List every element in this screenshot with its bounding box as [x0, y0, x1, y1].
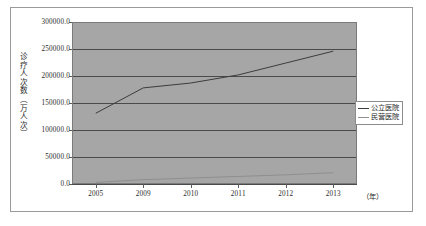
- x-tick-mark: [286, 184, 287, 188]
- legend-label: 公立医院: [371, 104, 399, 113]
- x-tick-label: 2013: [313, 190, 353, 198]
- legend: 公立医院民营医院: [355, 101, 403, 125]
- x-tick-label: 2010: [171, 190, 211, 198]
- legend-swatch: [358, 117, 369, 118]
- x-tick-label: 2005: [76, 190, 116, 198]
- y-tick-label: 150000.0: [10, 99, 70, 107]
- plot-area: [72, 22, 357, 184]
- legend-swatch: [358, 108, 369, 109]
- y-tick-label: 200000.0: [10, 72, 70, 80]
- legend-item: 公立医院: [358, 104, 399, 113]
- x-tick-mark: [143, 184, 144, 188]
- series-line: [96, 51, 334, 113]
- x-tick-label: 2009: [123, 190, 163, 198]
- x-axis-unit-label: （年）: [362, 190, 383, 201]
- y-tick-label: 250000.0: [10, 45, 70, 53]
- y-tick-label: 100000.0: [10, 126, 70, 134]
- y-axis-tick-labels: 300000.0250000.0200000.0150000.0100000.0…: [10, 14, 70, 194]
- x-tick-mark: [238, 184, 239, 188]
- series-lines: [72, 22, 357, 184]
- y-tick-label: 0.0: [10, 180, 70, 188]
- x-tick-label: 2012: [266, 190, 306, 198]
- legend-item: 民营医院: [358, 113, 399, 122]
- y-tick-label: 300000.0: [10, 18, 70, 26]
- x-tick-mark: [96, 184, 97, 188]
- chart-figure: 诊疗人次数（万人次） 300000.0250000.0200000.015000…: [0, 0, 426, 226]
- y-tick-label: 50000.0: [10, 153, 70, 161]
- legend-label: 民营医院: [371, 113, 399, 122]
- gridline: [72, 184, 357, 185]
- x-tick-mark: [191, 184, 192, 188]
- x-tick-label: 2011: [218, 190, 258, 198]
- series-line: [96, 173, 334, 183]
- x-tick-mark: [333, 184, 334, 188]
